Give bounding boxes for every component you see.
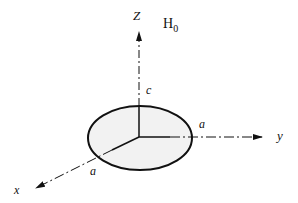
y-axis-label: y: [275, 128, 283, 143]
axes-diagram: Z H0 c a y a x: [0, 0, 298, 203]
semi-axis-c-label: c: [146, 83, 152, 97]
semi-axis-a-y-label: a: [199, 117, 205, 131]
semi-axis-a-x-label: a: [90, 164, 96, 178]
x-axis-label: x: [13, 183, 20, 197]
ellipsoid: [88, 106, 192, 170]
field-label: H0: [163, 16, 178, 34]
z-axis-label: Z: [133, 8, 141, 23]
